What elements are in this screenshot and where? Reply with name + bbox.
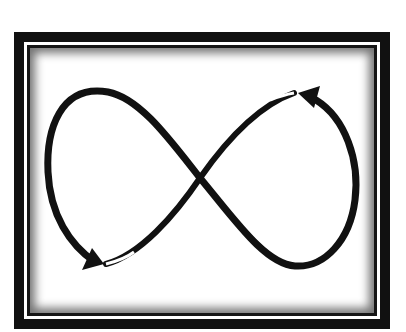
infinity-left-loop bbox=[48, 91, 200, 262]
infinity-icon bbox=[0, 0, 406, 332]
infinity-right-loop bbox=[200, 100, 356, 266]
arrowhead-top-right-icon bbox=[298, 86, 320, 108]
